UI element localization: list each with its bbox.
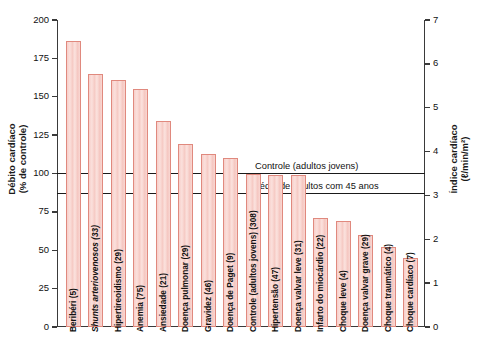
y-axis-right-tick-label: 1 <box>433 278 467 288</box>
y-axis-left-tick-label: 200 <box>15 15 49 25</box>
y-axis-left-title-line2: (% de controle) <box>17 104 28 214</box>
y-axis-left-tick <box>52 58 57 59</box>
y-axis-right-tick <box>425 326 430 327</box>
reference-line-control-label: Controle (adultos jovens) <box>255 161 358 172</box>
bar-label: Doença valvar leve (31) <box>294 240 303 332</box>
y-axis-right-tick-label: 4 <box>433 146 467 156</box>
y-axis-right-tick-label: 2 <box>433 234 467 244</box>
bar <box>66 41 81 327</box>
bar-label: Choque leve (4) <box>339 270 348 332</box>
y-axis-right-tick-label: 7 <box>433 15 467 25</box>
y-axis-left-tick <box>52 326 57 327</box>
bar-label: Shunts arteriovenosos (33) <box>91 225 100 332</box>
y-axis-left-tick-label: 125 <box>15 130 49 140</box>
y-axis-right-tick <box>425 107 430 108</box>
bar-label: Anemia (75) <box>136 285 145 332</box>
cardiac-output-bar-chart: Débito cardíaco (% de controle) Índice c… <box>0 0 480 341</box>
y-axis-left-tick <box>52 96 57 97</box>
bar-label: Infarto do miocárdio (22) <box>316 235 325 332</box>
y-axis-right-tick-label: 0 <box>433 322 467 332</box>
y-axis-left-tick-label: 100 <box>15 168 49 178</box>
bar-label: Beribéri (5) <box>69 288 78 332</box>
bar-label: Hipertireoidismo (29) <box>114 249 123 332</box>
bar-label: Ansiedade (21) <box>159 273 168 332</box>
y-axis-right-tick-label: 6 <box>433 58 467 68</box>
bar-label: Doença valvar grave (29) <box>361 234 370 332</box>
y-axis-left-tick-label: 150 <box>15 91 49 101</box>
bar-label: Controle (adultos jovens) (308) <box>249 210 258 332</box>
y-axis-right-tick-label: 3 <box>433 190 467 200</box>
y-axis-left-tick-label: 75 <box>15 206 49 216</box>
y-axis-left-tick <box>52 211 57 212</box>
y-axis-right-tick <box>425 282 430 283</box>
y-axis-left-tick <box>52 250 57 251</box>
bar-label: Doença de Paget (9) <box>226 253 235 332</box>
y-axis-left-tick-label: 175 <box>15 53 49 63</box>
y-axis-right-tick-label: 5 <box>433 102 467 112</box>
y-axis-left-tick-label: 25 <box>15 283 49 293</box>
bar-label: Gravidez (46) <box>204 280 213 332</box>
y-axis-left-tick <box>52 288 57 289</box>
y-axis-right-tick <box>425 19 430 20</box>
y-axis-left-tick <box>52 19 57 20</box>
plot-area: 0255075100125150175200 01234567 Controle… <box>57 20 425 327</box>
y-axis-right-tick <box>425 239 430 240</box>
bar-label: Choque traumático (4) <box>384 244 393 332</box>
y-axis-right-tick <box>425 151 430 152</box>
y-axis-right-tick <box>425 195 430 196</box>
bar-label: Choque cardíaco (7) <box>406 252 415 332</box>
y-axis-left-title-line1: Débito cardíaco <box>6 104 17 214</box>
bar-label: Doença pulmonar (29) <box>181 245 190 332</box>
y-axis-left-tick-label: 0 <box>15 322 49 332</box>
bar-label: Hipertensão (47) <box>271 267 280 332</box>
y-axis-left-title: Débito cardíaco (% de controle) <box>6 104 28 214</box>
y-axis-right-tick <box>425 63 430 64</box>
y-axis-left-tick-label: 50 <box>15 245 49 255</box>
y-axis-left-tick <box>52 134 57 135</box>
